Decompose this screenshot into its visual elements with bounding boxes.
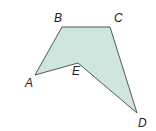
vertex-label-e: E bbox=[72, 64, 81, 78]
vertex-label-d: D bbox=[138, 116, 147, 130]
vertex-label-c: C bbox=[114, 11, 123, 25]
polygon-ABCDE bbox=[35, 27, 137, 113]
vertex-label-b: B bbox=[54, 11, 62, 25]
vertex-label-a: A bbox=[24, 76, 33, 90]
pentagon-diagram: B C A E D bbox=[0, 0, 156, 131]
